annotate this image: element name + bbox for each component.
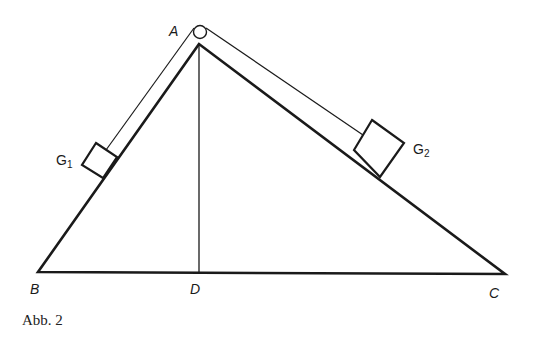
rope-left [106,28,194,150]
label-b: B [30,281,39,297]
label-g2: G2 [413,141,430,159]
label-a: A [168,23,178,39]
label-c: C [489,285,500,301]
inclined-plane-diagram: A B D C G1 G2 [0,0,540,342]
weight-g2-block [354,120,404,177]
label-g1: G1 [56,152,73,170]
figure-caption: Abb. 2 [22,312,63,329]
pulley-icon [194,26,207,39]
weight-g1-block [82,143,117,178]
rope-right [206,28,363,135]
label-d: D [190,281,200,297]
